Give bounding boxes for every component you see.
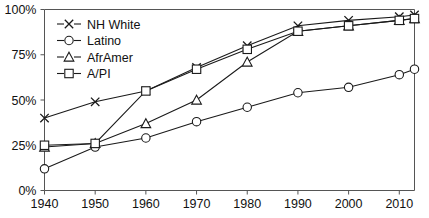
legend-label: NH White xyxy=(87,18,141,32)
legend: NH WhiteLatinoAfrAmerA/PI xyxy=(57,18,141,82)
square-marker xyxy=(243,45,251,53)
square-marker xyxy=(294,27,302,35)
triangle-marker xyxy=(64,52,74,61)
x-tick-label: 1980 xyxy=(233,197,261,211)
x-tick-label: 1990 xyxy=(284,197,312,211)
y-axis: 0%25%50%75%100% xyxy=(5,3,45,198)
circle-marker xyxy=(142,134,150,142)
square-marker xyxy=(65,69,73,77)
x-tick-label: 2010 xyxy=(385,197,413,211)
circle-marker xyxy=(192,118,200,126)
square-marker xyxy=(192,65,200,73)
circle-marker xyxy=(410,65,418,73)
x-axis: 19401950196019701980199020002010 xyxy=(31,191,414,211)
circle-marker xyxy=(294,89,302,97)
circle-marker xyxy=(395,70,403,78)
legend-item[interactable]: NH White xyxy=(57,18,141,32)
line-chart: 0%25%50%75%100%1940195019601970198019902… xyxy=(0,0,429,218)
series-latino xyxy=(40,65,418,173)
circle-marker xyxy=(243,103,251,111)
legend-label: A/PI xyxy=(87,67,111,81)
square-marker xyxy=(142,87,150,95)
chart-canvas: 0%25%50%75%100%1940195019601970198019902… xyxy=(0,0,429,218)
x-tick-label: 2000 xyxy=(335,197,363,211)
square-marker xyxy=(91,139,99,147)
legend-item[interactable]: A/PI xyxy=(57,67,111,81)
y-tick-label: 25% xyxy=(11,139,36,153)
triangle-marker xyxy=(141,119,151,128)
circle-marker xyxy=(65,36,73,44)
triangle-marker xyxy=(192,95,202,104)
legend-item[interactable]: AfrAmer xyxy=(57,51,133,65)
y-tick-label: 75% xyxy=(11,48,36,62)
square-marker xyxy=(344,22,352,30)
square-marker xyxy=(395,16,403,24)
x-tick-label: 1950 xyxy=(81,197,109,211)
x-marker xyxy=(91,98,99,106)
y-tick-label: 50% xyxy=(11,94,36,108)
square-marker xyxy=(410,14,418,22)
legend-label: AfrAmer xyxy=(87,51,133,65)
x-tick-label: 1960 xyxy=(132,197,160,211)
circle-marker xyxy=(344,83,352,91)
x-tick-label: 1940 xyxy=(31,197,59,211)
square-marker xyxy=(40,141,48,149)
series-line xyxy=(45,69,415,169)
x-marker xyxy=(65,20,73,28)
x-tick-label: 1970 xyxy=(183,197,211,211)
legend-label: Latino xyxy=(87,34,121,48)
triangle-marker xyxy=(242,57,252,66)
circle-marker xyxy=(40,165,48,173)
legend-item[interactable]: Latino xyxy=(57,34,121,48)
y-tick-label: 100% xyxy=(5,3,37,17)
